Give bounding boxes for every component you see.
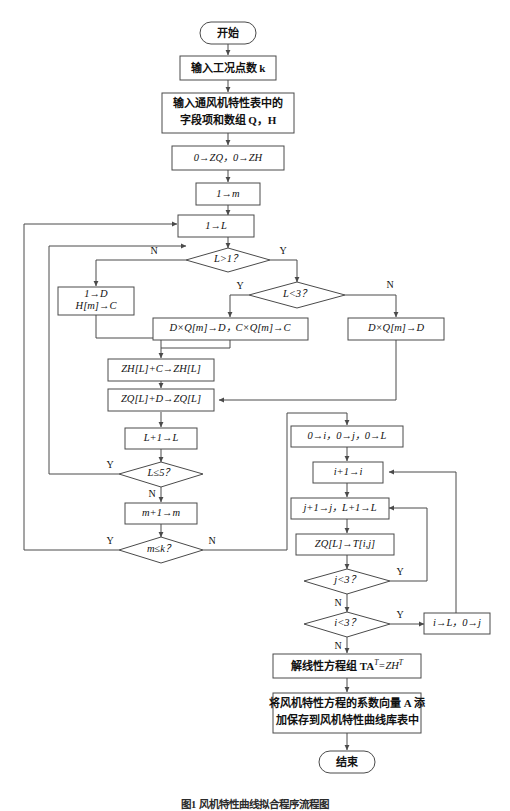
acc-zq-label: ZQ[L]+D→ZQ[L] bbox=[121, 393, 201, 404]
start-label: 开始 bbox=[217, 26, 239, 39]
mul-d-label: D×Q[m]→D bbox=[367, 322, 425, 333]
node-dec-j-lt-3: j<3？ bbox=[304, 569, 390, 594]
dec-l-gt-1-label: L>1？ bbox=[213, 253, 242, 264]
dec-i-lt-3-label: i<3？ bbox=[334, 617, 359, 628]
node-reset-il: i→L，0→j bbox=[424, 613, 490, 634]
inc-jl-label: j+1→j，L+1→L bbox=[301, 502, 376, 513]
node-end: 结束 bbox=[319, 751, 375, 773]
node-inc-i: i+1→i bbox=[313, 462, 383, 483]
branch-label-l-lt-3-no: N bbox=[386, 279, 393, 290]
mul-dc-label: D×Q[m]→D，C×Q[m]→C bbox=[168, 322, 291, 333]
input-table-line2: 字段项和数组 Q，H bbox=[180, 113, 277, 126]
node-solve: 解线性方程组 TAT=ZHT bbox=[273, 654, 421, 678]
node-inc-l: L+1→L bbox=[125, 428, 197, 449]
node-dec-l-lt-3: L<3？ bbox=[249, 282, 345, 308]
node-acc-zh: ZH[L]+C→ZH[L] bbox=[108, 359, 214, 381]
node-mul-dc: D×Q[m]→D，C×Q[m]→C bbox=[153, 318, 308, 340]
node-input-k: 输入工况点数 k bbox=[180, 56, 276, 80]
inc-i-label: i+1→i bbox=[334, 466, 363, 477]
figure-caption: 图1 风机特性曲线拟合程序流程图 bbox=[0, 796, 510, 811]
solve-label-mid: =ZH bbox=[378, 660, 400, 671]
node-mul-d: D×Q[m]→D bbox=[348, 318, 444, 340]
branch-label-l-le-5-yes: Y bbox=[106, 459, 113, 470]
dec-l-le-5-label: L≤5？ bbox=[147, 467, 175, 478]
branch-label-l-gt-1-no: N bbox=[150, 245, 157, 256]
node-init-zq-zh: 0→ZQ，0→ZH bbox=[172, 146, 284, 170]
node-l-init: 1→L bbox=[178, 215, 254, 237]
dec-m-le-k-label: m≤k？ bbox=[147, 543, 175, 554]
assign-t-label: ZQ[L]→T[i,j] bbox=[315, 538, 375, 549]
branch-label-l-lt-3-yes: Y bbox=[236, 280, 243, 291]
branch-label-i-lt-3-yes: Y bbox=[396, 609, 403, 620]
node-inc-jl: j+1→j，L+1→L bbox=[291, 498, 389, 519]
node-init-ijl: 0→i，0→j，0→L bbox=[291, 426, 403, 447]
node-dec-i-lt-3: i<3？ bbox=[304, 612, 390, 637]
save-line1: 将风机特性方程的系数向量 A 添 bbox=[269, 696, 426, 709]
inc-m-label: m+1→m bbox=[142, 507, 180, 518]
solve-label: 解线性方程组 TAT=ZHT bbox=[291, 658, 404, 672]
branch-label-m-le-k-yes: Y bbox=[106, 535, 113, 546]
set-d-c-line1: 1→D bbox=[84, 288, 108, 299]
node-set-d-c: 1→D H[m]→C bbox=[58, 287, 134, 315]
m-init-label: 1→m bbox=[216, 188, 240, 199]
input-table-line1: 输入通风机特性表中的 bbox=[173, 96, 283, 109]
dec-l-lt-3-label: L<3？ bbox=[282, 288, 311, 299]
dec-j-lt-3-label: j<3？ bbox=[332, 574, 359, 585]
node-assign-t: ZQ[L]→T[i,j] bbox=[296, 534, 394, 555]
node-acc-zq: ZQ[L]+D→ZQ[L] bbox=[108, 389, 214, 411]
node-input-table: 输入通风机特性表中的 字段项和数组 Q，H bbox=[162, 93, 294, 133]
node-dec-l-le-5: L≤5？ bbox=[119, 462, 203, 487]
branch-label-i-lt-3-no: N bbox=[334, 640, 341, 651]
node-inc-m: m+1→m bbox=[125, 503, 197, 524]
save-line2: 加保存到风机特性曲线库表中 bbox=[275, 713, 419, 726]
solve-label-prefix: 解线性方程组 TA bbox=[291, 659, 374, 672]
branch-label-m-le-k-no: N bbox=[208, 535, 215, 546]
init-zq-zh-label: 0→ZQ，0→ZH bbox=[194, 152, 264, 163]
l-init-label: 1→L bbox=[205, 220, 227, 231]
acc-zh-label: ZH[L]+C→ZH[L] bbox=[121, 363, 200, 374]
branch-label-j-lt-3-no: N bbox=[334, 597, 341, 608]
node-dec-l-gt-1: L>1？ bbox=[186, 248, 270, 272]
reset-il-label: i→L，0→j bbox=[433, 617, 481, 628]
branch-label-l-le-5-no: N bbox=[148, 488, 155, 499]
inc-l-label: L+1→L bbox=[143, 432, 179, 443]
node-m-init: 1→m bbox=[196, 183, 260, 205]
branch-label-j-lt-3-yes: Y bbox=[396, 566, 403, 577]
input-k-label: 输入工况点数 k bbox=[191, 61, 267, 74]
init-ijl-label: 0→i，0→j，0→L bbox=[308, 430, 387, 441]
node-dec-m-le-k: m≤k？ bbox=[119, 537, 203, 563]
branch-label-l-gt-1-yes: Y bbox=[279, 245, 286, 256]
node-save: 将风机特性方程的系数向量 A 添 加保存到风机特性曲线库表中 bbox=[269, 693, 426, 733]
end-label: 结束 bbox=[335, 755, 359, 768]
node-start: 开始 bbox=[200, 22, 256, 44]
set-d-c-line2: H[m]→C bbox=[75, 300, 118, 311]
